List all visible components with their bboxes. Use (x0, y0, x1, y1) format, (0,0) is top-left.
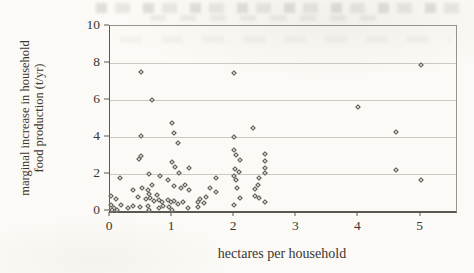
data-point-marker (256, 195, 262, 201)
x-tick-mark (419, 212, 420, 216)
page-bleedthrough-smudge (150, 15, 390, 21)
x-tick-label: 1 (168, 219, 175, 233)
x-tick-mark (233, 212, 234, 216)
x-tick-mark (171, 212, 172, 216)
data-point-marker (195, 204, 201, 210)
data-point-marker (201, 200, 207, 206)
data-point-marker (231, 134, 237, 140)
gridline-y-4 (110, 137, 456, 138)
x-tick-mark (109, 212, 110, 216)
data-point-marker (138, 204, 144, 210)
data-point-marker (256, 175, 262, 181)
data-point-marker (262, 151, 268, 157)
data-point-marker (138, 69, 144, 75)
data-point-marker (231, 70, 237, 76)
data-point-marker (172, 164, 178, 170)
x-axis-label: hectares per household (109, 247, 455, 261)
x-axis: 012345 (109, 211, 455, 239)
data-point-marker (186, 165, 192, 171)
data-point-marker (185, 205, 191, 211)
y-tick-label: 0 (93, 203, 100, 217)
data-point-marker (207, 185, 213, 191)
data-point-marker (262, 199, 268, 205)
data-point-marker (213, 189, 219, 195)
data-point-marker (175, 140, 181, 146)
data-point-marker (149, 97, 155, 103)
scatter-plot-figure: marginal increase in household food prod… (0, 0, 474, 273)
data-point-marker (171, 130, 177, 136)
x-tick-mark (295, 212, 296, 216)
data-point-marker (233, 152, 239, 158)
data-point-marker (393, 167, 399, 173)
y-axis-label: marginal increase in household food prod… (18, 22, 48, 214)
y-tick-label: 6 (93, 92, 100, 106)
x-tick-label: 3 (292, 219, 299, 233)
data-point-marker (117, 175, 123, 181)
data-point-marker (234, 185, 240, 191)
data-point-marker (393, 130, 399, 136)
data-point-marker (138, 133, 144, 139)
data-point-marker (231, 203, 237, 209)
data-point-marker (238, 157, 244, 163)
x-tick-label: 5 (416, 219, 423, 233)
data-point-marker (178, 185, 184, 191)
data-point-marker (169, 120, 175, 126)
x-tick-mark (357, 212, 358, 216)
data-point-marker (238, 195, 244, 201)
y-tick-label: 2 (93, 166, 100, 180)
data-point-marker (176, 170, 182, 176)
data-point-marker (130, 188, 136, 194)
data-point-marker (203, 194, 209, 200)
data-point-marker (418, 62, 424, 68)
data-point-marker (166, 178, 172, 184)
x-tick-label: 4 (354, 219, 361, 233)
data-point-marker (113, 196, 119, 202)
data-point-marker (233, 177, 239, 183)
data-point-marker (146, 171, 152, 177)
data-point-marker (135, 194, 141, 200)
data-point-marker (149, 182, 155, 188)
x-tick-label: 0 (106, 219, 113, 233)
data-point-marker (213, 175, 219, 181)
data-point-marker (118, 203, 124, 209)
y-axis-label-line1: marginal increase in household (18, 22, 32, 214)
y-tick-label: 8 (93, 55, 100, 68)
data-point-marker (250, 125, 256, 131)
page-bleedthrough-smudge (96, 3, 468, 13)
data-point-marker (186, 188, 192, 194)
y-tick-label: 10 (87, 18, 101, 32)
data-point-marker (262, 170, 268, 176)
y-tick-label: 4 (93, 129, 100, 143)
plot-area (109, 25, 457, 213)
data-point-marker (418, 177, 424, 183)
y-axis-label-line2: food production (t/yr) (32, 22, 46, 214)
gridline-y-6 (110, 100, 456, 101)
x-tick-label: 2 (230, 219, 237, 233)
y-axis: 0246810 (66, 25, 109, 210)
gridline-y-8 (110, 63, 456, 64)
data-point-marker (262, 158, 268, 164)
data-point-marker (171, 183, 177, 189)
data-point-marker (356, 105, 362, 111)
